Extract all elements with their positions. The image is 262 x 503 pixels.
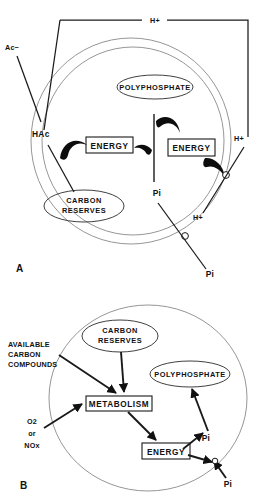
panel-a: H+ Ac− HAc POLYPHOSPHATE CARBON RESERVES… <box>5 16 248 279</box>
panel-a-hac-to-carbon-line <box>48 145 74 192</box>
panel-a-label-hac: HAc <box>32 129 50 139</box>
panel-b-label-polyphosphate: POLYPHOSPHATE <box>154 370 225 379</box>
figure-container: H+ Ac− HAc POLYPHOSPHATE CARBON RESERVES… <box>0 0 262 503</box>
panel-b: CARBON RESERVES POLYPHOSPHATE METABOLISM… <box>8 305 247 491</box>
panel-a-label-carbon-reserves-line2: RESERVES <box>62 206 106 215</box>
panel-a-label-energy-left: ENERGY <box>90 142 128 151</box>
panel-b-letter: B <box>20 480 28 491</box>
panel-a-letter: A <box>16 263 24 274</box>
panel-b-label-energy: ENERGY <box>147 448 185 457</box>
panel-a-hplus-efflux-line <box>203 147 244 213</box>
panel-a-label-acetate: Ac− <box>5 43 19 52</box>
panel-b-label-available-line3: COMPOUNDS <box>8 360 57 369</box>
panel-a-label-hplus-lower-right: H+ <box>193 213 203 222</box>
panel-b-arrow-energy-to-pi <box>183 433 203 449</box>
diagram-canvas: H+ Ac− HAc POLYPHOSPHATE CARBON RESERVES… <box>0 0 262 503</box>
panel-a-acetate-influx-line <box>44 20 60 130</box>
panel-b-arrow-pi-to-polyphosphate <box>192 389 208 431</box>
panel-b-label-metabolism: METABOLISM <box>89 400 149 409</box>
panel-a-label-carbon-reserves-line1: CARBON <box>66 196 101 205</box>
panel-b-label-pi-external: Pi <box>224 479 233 489</box>
panel-a-hplus-line-right <box>167 20 248 137</box>
panel-b-label-available-line1: AVAILABLE <box>8 340 50 349</box>
panel-a-swoosh-bar-to-energy-left <box>134 145 152 155</box>
panel-b-label-carbon-reserves-line2: RESERVES <box>98 336 142 345</box>
panel-a-label-pi-internal: Pi <box>153 188 162 198</box>
panel-a-swoosh-bar-to-energy-right <box>156 117 180 133</box>
panel-b-arrow-reserves-to-metabolism <box>121 352 124 392</box>
panel-b-phosphate-transport-port <box>212 458 218 464</box>
panel-b-label-carbon-reserves-line1: CARBON <box>102 326 137 335</box>
panel-a-label-polyphosphate: POLYPHOSPHATE <box>119 83 190 92</box>
panel-b-label-available-line2: CARBON <box>8 350 41 359</box>
panel-b-label-o2: O2 <box>27 417 37 426</box>
panel-a-label-pi-external: Pi <box>206 269 215 279</box>
panel-b-label-or: or <box>28 429 36 438</box>
panel-a-label-energy-right: ENERGY <box>172 144 210 153</box>
panel-b-arrow-metabolism-to-energy <box>128 412 156 440</box>
panel-a-label-hplus-upper-right: H+ <box>234 134 244 143</box>
panel-a-acetate-stub-line <box>17 56 41 122</box>
panel-a-swoosh-hac-to-energy <box>60 141 87 160</box>
panel-a-label-hplus-top: H+ <box>150 16 160 25</box>
panel-b-label-nox: NOx <box>24 441 39 450</box>
panel-b-label-pi-internal: Pi <box>202 433 211 443</box>
panel-b-arrow-carbon-to-metabolism <box>59 355 116 393</box>
panel-b-arrow-energy-to-transport <box>188 455 212 462</box>
